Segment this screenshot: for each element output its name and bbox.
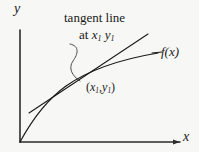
- annotation-y-subscript: 1: [110, 34, 114, 43]
- tangent-line-figure: y x f(x) tangent line at x1 y1 (x1,y1): [0, 0, 199, 152]
- coord-close-paren: ): [111, 80, 115, 94]
- function-curve: [20, 53, 158, 142]
- tangent-line: [29, 34, 148, 113]
- tangent-point-annotation: at x1 y1: [79, 28, 115, 43]
- x-axis-label: x: [183, 130, 189, 144]
- annotation-at-word: at: [79, 27, 92, 42]
- point-coordinates-label: (x1,y1): [86, 81, 115, 94]
- y-axis-label: y: [14, 2, 20, 16]
- function-label: f(x): [161, 45, 179, 58]
- annotation-pointer-curve: [70, 44, 80, 81]
- x-axis-arrow-icon: [173, 139, 180, 144]
- tangent-line-annotation: tangent line: [64, 11, 125, 24]
